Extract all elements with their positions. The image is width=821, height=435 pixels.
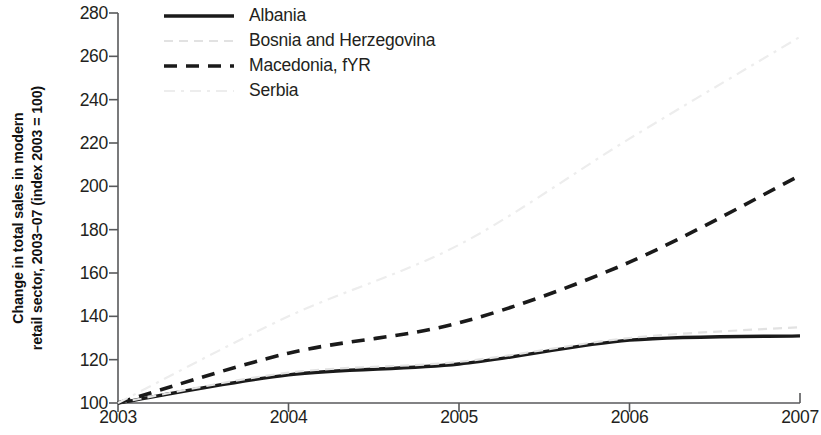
series-line-macedonia-fyr <box>118 176 800 404</box>
series-lines <box>118 37 800 403</box>
chart-figure: Change in total sales in modern retail s… <box>0 0 821 435</box>
axis-lines <box>118 13 800 403</box>
plot-area <box>0 0 821 435</box>
series-line-albania <box>118 336 800 403</box>
series-line-serbia <box>118 37 800 403</box>
